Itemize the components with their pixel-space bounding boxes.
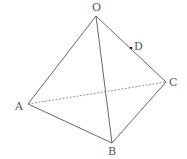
point-label-d: D (134, 40, 143, 53)
vertex-label-c: C (169, 76, 177, 89)
vertex-label-a: A (14, 100, 24, 113)
edges-group (28, 16, 166, 143)
edge-bc (112, 82, 166, 143)
tetrahedron-diagram: O A B C D (0, 0, 187, 159)
points-group (130, 47, 133, 50)
edge-ob (96, 16, 112, 143)
edge-ab (28, 104, 112, 143)
labels-group: O A B C D (14, 1, 177, 158)
edge-oa (28, 16, 96, 104)
edge-ac (28, 82, 166, 104)
vertex-label-b: B (108, 145, 116, 158)
point-d (130, 47, 133, 50)
vertex-label-o: O (92, 1, 101, 14)
